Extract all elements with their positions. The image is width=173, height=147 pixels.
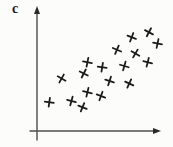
scatter-point [77,101,89,113]
x-axis-arrowhead [153,128,161,134]
cross-stroke [70,97,72,106]
scatter-point [104,75,115,86]
scatter-point [129,47,141,59]
scatter-point [111,44,123,56]
scatter-point [55,72,67,84]
cross-stroke [101,63,102,72]
scatter-point [152,38,163,49]
scatter-point [82,57,93,68]
scatter-point [78,67,90,79]
scatter-figure: c [0,0,173,147]
scatter-point [95,90,107,102]
scatter-point [123,78,135,90]
scatter-point [142,57,153,68]
scatter-point [143,26,155,38]
cross-stroke [147,58,149,67]
scatter-point [126,31,138,43]
cross-stroke [49,98,50,107]
cross-stroke [87,58,89,67]
cross-stroke [123,62,125,71]
scatter-point [119,60,130,71]
cross-stroke [157,39,159,48]
scatter-point [97,62,107,72]
scatter-point [82,87,93,98]
y-axis-arrowhead [34,6,40,14]
scatter-point [44,97,54,107]
scatter-plot [0,0,173,147]
scatter-point [66,95,77,106]
cross-stroke [86,88,88,97]
